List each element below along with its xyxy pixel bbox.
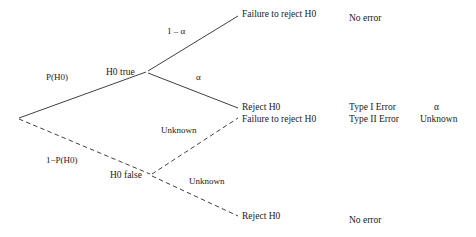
leaf-outcome-no-error-top: No error: [349, 14, 381, 24]
edge-label-unknown-upper: Unknown: [161, 126, 197, 135]
edge-root-to-h0-true: [19, 72, 146, 118]
leaf-decision-failure-to-reject-h0-top: Failure to reject H0: [242, 10, 316, 20]
leaf-outcome-no-error-bottom: No error: [349, 216, 381, 226]
leaf-outcome-type-i-error: Type I Error: [349, 103, 396, 113]
edge-label-one-minus-alpha: 1 – α: [167, 27, 185, 36]
leaf-outcome-type-ii-error: Type II Error: [349, 115, 399, 125]
edge-label-alpha: α: [196, 73, 201, 82]
edge-h0-true-to-reject: [148, 73, 238, 108]
leaf-rate-alpha: α: [434, 103, 439, 113]
leaf-decision-reject-h0-bottom: Reject H0: [242, 212, 280, 222]
tree-edges-layer: [0, 0, 476, 237]
decision-tree-diagram: H0 true H0 false P(H0) 1 – α α 1−P(H0) U…: [0, 0, 476, 237]
leaf-decision-failure-to-reject-h0-lower: Failure to reject H0: [242, 115, 316, 125]
edge-label-unknown-lower: Unknown: [189, 177, 225, 186]
edge-label-one-minus-p-h0: 1−P(H0): [46, 156, 78, 165]
node-label-h0-false: H0 false: [110, 171, 142, 181]
leaf-decision-reject-h0-upper: Reject H0: [242, 103, 280, 113]
node-label-h0-true: H0 true: [106, 68, 135, 78]
edge-h0-true-to-failure-reject: [148, 16, 238, 71]
leaf-rate-unknown: Unknown: [420, 115, 457, 125]
edge-label-p-h0: P(H0): [46, 73, 68, 82]
edge-root-to-h0-false: [19, 119, 150, 174]
